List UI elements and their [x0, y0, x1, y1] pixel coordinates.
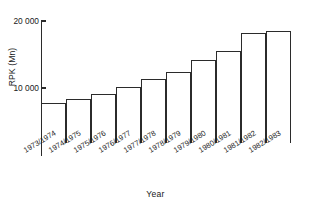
y-axis-tick-label: 20 000 — [0, 17, 39, 26]
y-axis-tick-label-text: 20 000 — [13, 17, 39, 26]
bar — [241, 33, 266, 143]
bar-chart: RPK (Mn) 10 00020 000 1973/19741974/1975… — [0, 0, 311, 206]
x-axis-tick-labels: 1973/19741974/19751975/19761976/19771977… — [41, 143, 291, 188]
x-axis-title: Year — [0, 189, 311, 199]
y-axis-tick-label: 10 000 — [0, 84, 39, 93]
bar — [266, 31, 291, 143]
bars-group — [41, 0, 291, 143]
y-axis-tick-label-text: 10 000 — [13, 84, 39, 93]
